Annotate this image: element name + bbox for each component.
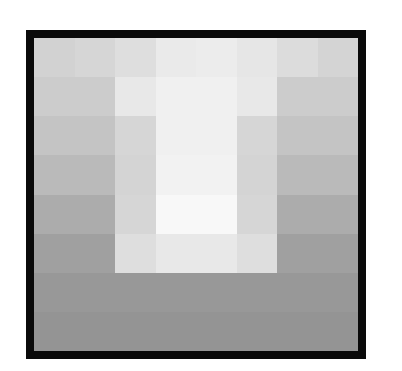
heatmap-cell	[156, 234, 197, 273]
heatmap-cell	[318, 195, 359, 234]
heatmap-cell	[156, 155, 197, 194]
heatmap-cell	[237, 77, 278, 116]
heatmap-cell	[115, 195, 156, 234]
heatmap-cell	[156, 77, 197, 116]
heatmap-cell	[75, 116, 116, 155]
heatmap-cell	[318, 155, 359, 194]
heatmap-cell	[156, 273, 197, 312]
heatmap-frame	[26, 30, 366, 359]
heatmap-cell	[318, 312, 359, 351]
heatmap-cell	[115, 38, 156, 77]
heatmap-cell	[34, 273, 75, 312]
heatmap-cell	[237, 38, 278, 77]
heatmap-cell	[277, 273, 318, 312]
heatmap-cell	[237, 234, 278, 273]
heatmap-cell	[277, 116, 318, 155]
heatmap-cell	[318, 38, 359, 77]
heatmap-cell	[156, 38, 197, 77]
heatmap-cell	[75, 77, 116, 116]
heatmap-cell	[115, 116, 156, 155]
heatmap-cell	[237, 195, 278, 234]
heatmap-cell	[277, 312, 318, 351]
heatmap-cell	[237, 155, 278, 194]
heatmap-cell	[237, 273, 278, 312]
heatmap-cell	[115, 234, 156, 273]
heatmap-cell	[196, 77, 237, 116]
heatmap-cell	[75, 38, 116, 77]
heatmap-cell	[75, 234, 116, 273]
heatmap-cell	[156, 195, 197, 234]
heatmap-cell	[277, 155, 318, 194]
heatmap-cell	[75, 273, 116, 312]
heatmap-cell	[318, 234, 359, 273]
heatmap-cell	[34, 116, 75, 155]
heatmap-cell	[34, 38, 75, 77]
heatmap-cell	[34, 77, 75, 116]
heatmap-cell	[75, 195, 116, 234]
heatmap-cell	[34, 234, 75, 273]
heatmap-cell	[156, 312, 197, 351]
heatmap-cell	[237, 116, 278, 155]
heatmap-cell	[75, 155, 116, 194]
heatmap-cell	[318, 273, 359, 312]
heatmap-cell	[277, 77, 318, 116]
heatmap-grid	[34, 38, 358, 351]
heatmap-cell	[196, 195, 237, 234]
heatmap-cell	[277, 234, 318, 273]
heatmap-cell	[34, 195, 75, 234]
heatmap-cell	[34, 312, 75, 351]
heatmap-cell	[196, 234, 237, 273]
heatmap-cell	[196, 38, 237, 77]
heatmap-cell	[196, 312, 237, 351]
heatmap-cell	[277, 38, 318, 77]
heatmap-cell	[196, 116, 237, 155]
heatmap-cell	[196, 155, 237, 194]
heatmap-cell	[237, 312, 278, 351]
heatmap-cell	[115, 77, 156, 116]
heatmap-cell	[115, 155, 156, 194]
heatmap-cell	[318, 77, 359, 116]
heatmap-cell	[156, 116, 197, 155]
heatmap-cell	[196, 273, 237, 312]
heatmap-cell	[75, 312, 116, 351]
heatmap-cell	[115, 312, 156, 351]
heatmap-cell	[115, 273, 156, 312]
heatmap-cell	[277, 195, 318, 234]
heatmap-cell	[34, 155, 75, 194]
heatmap-cell	[318, 116, 359, 155]
